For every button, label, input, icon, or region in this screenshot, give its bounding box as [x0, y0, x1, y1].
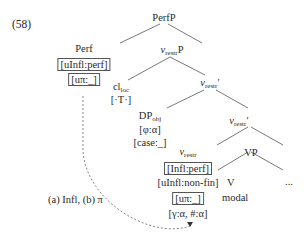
- node-vrestrp: vrestrP: [161, 44, 184, 56]
- node-vrestr-bar-2: vrestr′: [229, 115, 248, 127]
- node-vp: VP: [244, 147, 257, 159]
- node-ellipsis: ...: [285, 176, 293, 188]
- dp-feature-phi: [φ:α]: [139, 124, 160, 136]
- example-number: (58): [12, 18, 31, 30]
- vrestr-feature-upi: [uπ:_]: [172, 192, 204, 205]
- node-dp-obj: DPobj: [139, 110, 161, 122]
- dp-feature-case: [case:_]: [133, 137, 166, 149]
- vrestr-feature-uinfl: [uInfl:non-fin]: [157, 177, 218, 189]
- node-vrestr-head: vrestr: [179, 146, 196, 158]
- vrestr-feature-gamma: [γ:α, #:α]: [169, 208, 208, 220]
- perf-feature-upi: [uπ:_]: [68, 73, 100, 86]
- arrow-label: (a) Infl, (b) π: [48, 194, 103, 206]
- v-label-modal: modal: [222, 192, 248, 204]
- cl-feature: [·T·]: [111, 94, 131, 106]
- vrestr-feature-infl: [Infl:perf]: [164, 162, 212, 175]
- node-perf: Perf: [75, 43, 93, 55]
- perf-feature-uinfl: [uInfl:perf]: [57, 58, 110, 71]
- node-cl-loc: clloc: [113, 81, 129, 93]
- node-vrestr-bar-1: vrestr′: [200, 77, 219, 89]
- node-perfp: PerfP: [152, 12, 175, 24]
- node-v: V: [227, 177, 235, 189]
